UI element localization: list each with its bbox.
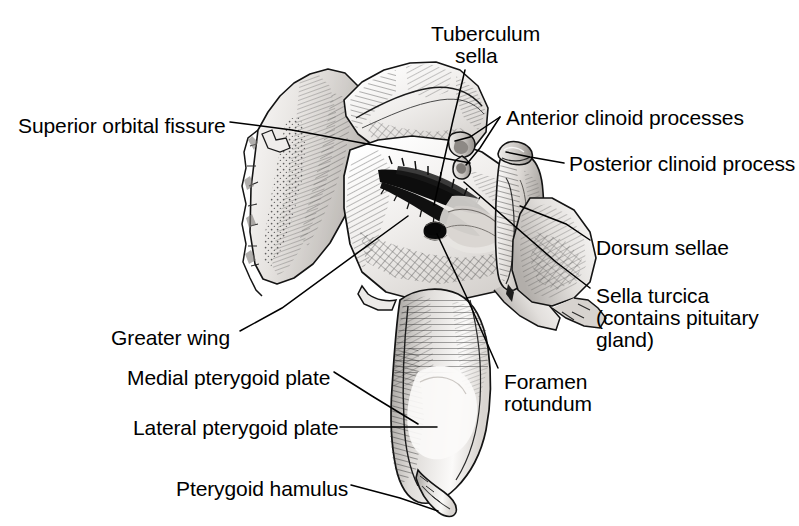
label-sella-turcica-line2: (contains pituitary <box>596 306 759 329</box>
label-foramen-rotundum: Foramen <box>504 370 587 393</box>
label-posterior-clinoid-process: Posterior clinoid process <box>569 152 795 175</box>
label-foramen-rotundum-line2: rotundum <box>504 392 592 415</box>
label-anterior-clinoid-processes: Anterior clinoid processes <box>506 106 744 129</box>
pterygoid-process <box>389 289 490 516</box>
label-greater-wing: Greater wing <box>111 326 230 349</box>
label-superior-orbital-fissure: Superior orbital fissure <box>18 114 226 137</box>
label-dorsum-sellae: Dorsum sellae <box>596 236 729 259</box>
label-tuberculum-sella-line2: sella <box>455 44 498 67</box>
label-tuberculum-sella: Tuberculum <box>431 22 540 45</box>
figure-canvas: Superior orbital fissure Tuberculum sell… <box>0 0 799 526</box>
label-sella-turcica: Sella turcica <box>596 284 709 307</box>
sphenoid-bone-illustration <box>0 0 799 526</box>
label-medial-pterygoid-plate: Medial pterygoid plate <box>127 366 330 389</box>
label-pterygoid-hamulus: Pterygoid hamulus <box>176 477 348 500</box>
label-sella-turcica-line3: gland) <box>596 328 654 351</box>
label-lateral-pterygoid-plate: Lateral pterygoid plate <box>133 416 339 439</box>
